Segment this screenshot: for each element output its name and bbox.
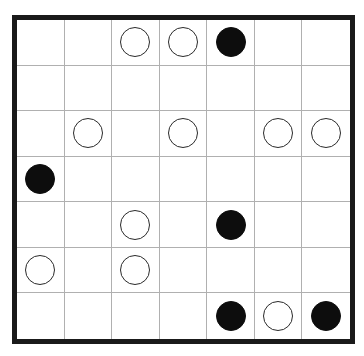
black-pearl-icon (25, 164, 55, 194)
grid-cell-r0-c0[interactable] (17, 20, 65, 66)
white-pearl-icon (263, 301, 293, 331)
white-pearl-icon (120, 255, 150, 285)
grid-cell-r5-c1[interactable] (65, 248, 113, 294)
grid-cell-r6-c0[interactable] (17, 293, 65, 339)
white-pearl-icon (25, 255, 55, 285)
white-pearl-icon (168, 27, 198, 57)
white-pearl-icon (120, 27, 150, 57)
grid-cell-r6-c1[interactable] (65, 293, 113, 339)
grid-cell-r6-c4[interactable] (207, 293, 255, 339)
grid-cell-r1-c2[interactable] (112, 66, 160, 112)
grid-cell-r2-c4[interactable] (207, 111, 255, 157)
grid-cell-r0-c3[interactable] (160, 20, 208, 66)
grid-cell-r3-c5[interactable] (255, 157, 303, 203)
clipped-title (120, 0, 244, 3)
grid-cell-r1-c0[interactable] (17, 66, 65, 112)
grid-cell-r1-c5[interactable] (255, 66, 303, 112)
grid-cell-r4-c6[interactable] (302, 202, 350, 248)
grid-cell-r5-c3[interactable] (160, 248, 208, 294)
grid-cell-r1-c3[interactable] (160, 66, 208, 112)
black-pearl-icon (216, 27, 246, 57)
grid-cell-r3-c2[interactable] (112, 157, 160, 203)
grid-cell-r1-c6[interactable] (302, 66, 350, 112)
grid-cell-r1-c1[interactable] (65, 66, 113, 112)
grid-cell-r4-c0[interactable] (17, 202, 65, 248)
grid-cell-r2-c6[interactable] (302, 111, 350, 157)
white-pearl-icon (120, 210, 150, 240)
black-pearl-icon (311, 301, 341, 331)
white-pearl-icon (73, 118, 103, 148)
grid-cell-r2-c3[interactable] (160, 111, 208, 157)
grid-cell-r0-c2[interactable] (112, 20, 160, 66)
puzzle-board (12, 15, 355, 344)
white-pearl-icon (168, 118, 198, 148)
grid-cell-r1-c4[interactable] (207, 66, 255, 112)
grid-cell-r3-c0[interactable] (17, 157, 65, 203)
white-pearl-icon (263, 118, 293, 148)
grid-cell-r5-c4[interactable] (207, 248, 255, 294)
grid-cell-r4-c5[interactable] (255, 202, 303, 248)
grid-cell-r2-c1[interactable] (65, 111, 113, 157)
black-pearl-icon (216, 210, 246, 240)
grid-cell-r3-c6[interactable] (302, 157, 350, 203)
grid-cell-r2-c0[interactable] (17, 111, 65, 157)
grid-cell-r5-c5[interactable] (255, 248, 303, 294)
grid-cell-r0-c1[interactable] (65, 20, 113, 66)
grid-cell-r3-c4[interactable] (207, 157, 255, 203)
grid-cell-r3-c1[interactable] (65, 157, 113, 203)
grid-cell-r2-c2[interactable] (112, 111, 160, 157)
grid-cell-r5-c0[interactable] (17, 248, 65, 294)
grid-cell-r4-c1[interactable] (65, 202, 113, 248)
grid-cell-r6-c5[interactable] (255, 293, 303, 339)
black-pearl-icon (216, 301, 246, 331)
grid-cell-r4-c3[interactable] (160, 202, 208, 248)
grid-cell-r3-c3[interactable] (160, 157, 208, 203)
grid-cell-r4-c4[interactable] (207, 202, 255, 248)
grid-cell-r0-c6[interactable] (302, 20, 350, 66)
white-pearl-icon (311, 118, 341, 148)
grid-cell-r2-c5[interactable] (255, 111, 303, 157)
grid-cell-r4-c2[interactable] (112, 202, 160, 248)
grid-cell-r5-c2[interactable] (112, 248, 160, 294)
grid-cell-r0-c5[interactable] (255, 20, 303, 66)
page (0, 0, 364, 356)
grid-cell-r0-c4[interactable] (207, 20, 255, 66)
grid-cell-r6-c6[interactable] (302, 293, 350, 339)
grid-cell-r6-c2[interactable] (112, 293, 160, 339)
grid-cell-r5-c6[interactable] (302, 248, 350, 294)
grid-cell-r6-c3[interactable] (160, 293, 208, 339)
